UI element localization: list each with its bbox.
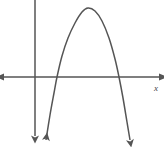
x-axis-label: x [153, 83, 158, 93]
graph-figure: x [0, 0, 164, 147]
graph-canvas: x [0, 0, 164, 147]
parabola-curve [46, 8, 130, 140]
